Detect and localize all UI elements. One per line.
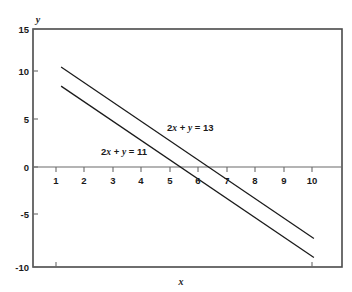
series-annotation-11-suffix: = 11 xyxy=(126,146,148,157)
series-annotation-11: 2x + y = 11 xyxy=(101,146,148,157)
series-annotation-11-mid: + xyxy=(111,146,122,157)
x-axis-tick-labels: 1 2 3 4 5 6 7 8 9 10 xyxy=(53,175,317,186)
y-tick-label-minus10: -10 xyxy=(15,262,29,273)
series-line-2x-plus-y-11 xyxy=(61,86,314,257)
y-tick-label-minus5: -5 xyxy=(21,209,30,220)
chart-container: 15 10 5 0 -5 -10 1 2 xyxy=(0,0,352,292)
line-chart: 15 10 5 0 -5 -10 1 2 xyxy=(0,0,352,292)
series-annotation-13-mid: + xyxy=(177,122,188,133)
x-tick-label-5: 5 xyxy=(167,175,173,186)
x-tick-label-1: 1 xyxy=(53,175,59,186)
series-line-2x-plus-y-13 xyxy=(61,67,314,238)
plot-frame xyxy=(33,29,342,267)
y-axis-tick-labels: 15 10 5 0 -5 -10 xyxy=(15,24,29,273)
y-tick-label-15: 15 xyxy=(18,24,29,35)
x-tick-label-10: 10 xyxy=(307,175,318,186)
x-tick-label-8: 8 xyxy=(252,175,257,186)
x-tick-label-4: 4 xyxy=(138,175,144,186)
series-annotation-13-suffix: = 13 xyxy=(192,122,213,133)
x-axis-title: x xyxy=(178,276,184,287)
y-tick-label-5: 5 xyxy=(24,114,30,125)
x-tick-label-9: 9 xyxy=(281,175,286,186)
x-tick-label-3: 3 xyxy=(110,175,115,186)
y-axis-title: y xyxy=(35,14,41,25)
series-annotation-13: 2x + y = 13 xyxy=(167,122,214,133)
y-tick-label-10: 10 xyxy=(18,66,29,77)
x-tick-label-2: 2 xyxy=(81,175,86,186)
y-tick-label-0: 0 xyxy=(24,162,29,173)
